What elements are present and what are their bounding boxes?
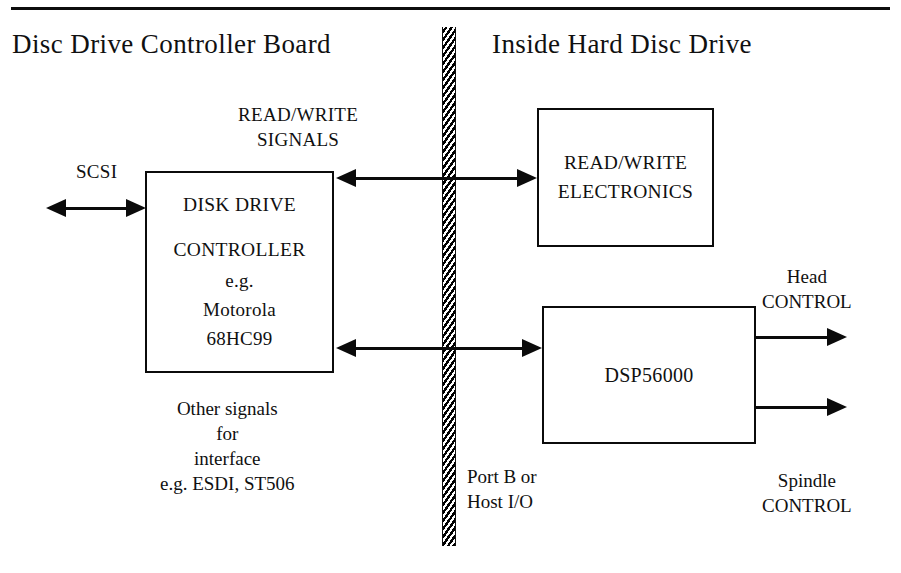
block-controller-line-1: CONTROLLER — [174, 239, 306, 261]
label-head-control: Head CONTROL — [762, 264, 852, 314]
section-title-left: Disc Drive Controller Board — [12, 31, 331, 58]
block-controller-line-3: Motorola — [203, 299, 276, 321]
label-spindle-line1: Spindle — [762, 468, 852, 493]
rw-signals-arrow-left-head — [336, 169, 356, 187]
top-rule — [11, 7, 890, 10]
hatched-divider — [442, 27, 456, 546]
block-dsp56000: DSP56000 — [542, 306, 756, 444]
label-other-line4: e.g. ESDI, ST506 — [160, 471, 295, 496]
block-controller-line-0: DISK DRIVE — [183, 194, 296, 216]
spindle-control-line — [754, 406, 829, 409]
scsi-arrow-left-head — [46, 199, 66, 217]
label-other-line1: Other signals — [160, 396, 295, 421]
label-head-line1: Head — [762, 264, 852, 289]
scsi-arrow-right-head — [126, 199, 146, 217]
block-read-write-electronics: READ/WRITE ELECTRONICS — [537, 108, 714, 247]
scsi-line — [64, 207, 128, 210]
label-head-line2: CONTROL — [762, 289, 852, 314]
host-io-arrow-right-head — [522, 339, 542, 357]
label-other-signals: Other signals for interface e.g. ESDI, S… — [160, 396, 295, 496]
rw-signals-arrow-right-head — [517, 169, 537, 187]
label-other-line2: for — [160, 421, 295, 446]
block-controller-line-4: 68HC99 — [206, 328, 272, 350]
block-controller-line-2: e.g. — [225, 270, 254, 292]
block-rw-line-0: READ/WRITE — [564, 152, 687, 174]
label-read-write-signals: READ/WRITE SIGNALS — [238, 102, 358, 152]
label-port-line2: Host I/O — [467, 489, 537, 514]
label-read-write-signals-line2: SIGNALS — [238, 127, 358, 152]
label-spindle-line2: CONTROL — [762, 493, 852, 518]
label-spindle-control: Spindle CONTROL — [762, 468, 852, 518]
host-io-arrow-left-head — [336, 339, 356, 357]
label-port-host-io: Port B or Host I/O — [467, 464, 537, 514]
head-control-arrow-head — [827, 328, 847, 346]
rw-signals-line — [354, 177, 519, 180]
block-dsp-line-0: DSP56000 — [604, 364, 693, 387]
head-control-line — [754, 336, 829, 339]
label-other-line3: interface — [160, 446, 295, 471]
host-io-line — [354, 347, 524, 350]
block-rw-line-1: ELECTRONICS — [558, 181, 693, 203]
label-read-write-signals-line1: READ/WRITE — [238, 102, 358, 127]
section-title-right: Inside Hard Disc Drive — [492, 31, 752, 58]
spindle-control-arrow-head — [827, 398, 847, 416]
label-scsi: SCSI — [76, 159, 117, 184]
block-disk-drive-controller: DISK DRIVE CONTROLLER e.g. Motorola 68HC… — [145, 171, 334, 373]
diagram-canvas: Disc Drive Controller Board Inside Hard … — [0, 0, 901, 573]
label-port-line1: Port B or — [467, 464, 537, 489]
